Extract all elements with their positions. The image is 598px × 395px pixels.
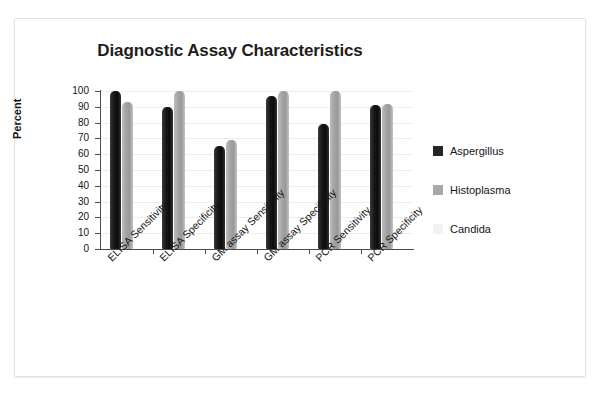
- bar[interactable]: [370, 105, 381, 249]
- legend-item[interactable]: Histoplasma: [433, 182, 583, 197]
- legend-label: Candida: [450, 223, 491, 235]
- legend-label: Aspergillus: [450, 145, 504, 157]
- y-axis-tick: [95, 138, 100, 139]
- y-axis-tick: [95, 249, 100, 250]
- y-axis-tick: [95, 233, 100, 234]
- y-axis-tick: [95, 123, 100, 124]
- bar[interactable]: [174, 91, 185, 249]
- bar[interactable]: [110, 91, 121, 249]
- bar[interactable]: [278, 91, 289, 249]
- y-axis-tick: [95, 107, 100, 108]
- legend-item[interactable]: Candida: [433, 221, 583, 236]
- bar[interactable]: [214, 146, 225, 249]
- y-axis-title: Percent: [11, 99, 23, 139]
- y-axis-tick-label: 10: [63, 228, 89, 238]
- y-axis-tick-label: 70: [63, 133, 89, 143]
- y-axis-tick: [95, 217, 100, 218]
- legend-item[interactable]: Aspergillus: [433, 143, 583, 158]
- y-axis-tick-label: 100: [63, 86, 89, 96]
- y-axis-tick: [95, 154, 100, 155]
- x-axis-tick: [205, 249, 206, 254]
- x-axis-tick: [309, 249, 310, 254]
- y-axis-tick: [95, 202, 100, 203]
- y-axis-tick-labels: 1009080706050403020100: [59, 19, 89, 319]
- bar[interactable]: [122, 102, 133, 249]
- y-axis-tick-label: 90: [63, 102, 89, 112]
- x-axis-category-labels: ELISA SensitivityELISA SpecificityGM ass…: [101, 255, 431, 365]
- bar[interactable]: [330, 91, 341, 249]
- y-axis-tick-label: 20: [63, 212, 89, 222]
- y-axis-tick-label: 0: [63, 244, 89, 254]
- chart-legend: AspergillusHistoplasmaCandida: [433, 143, 583, 260]
- legend-color-swatch: [433, 146, 443, 156]
- y-axis-tick: [95, 170, 100, 171]
- y-axis-tick-label: 50: [63, 165, 89, 175]
- figure-frame: Diagnostic Assay Characteristics Percent…: [14, 18, 586, 377]
- scanned-page-caption: [0, 0, 598, 12]
- y-axis-tick-label: 80: [63, 118, 89, 128]
- y-axis-tick-label: 30: [63, 197, 89, 207]
- legend-color-swatch: [433, 224, 443, 234]
- x-axis-tick: [153, 249, 154, 254]
- y-axis-tick: [95, 186, 100, 187]
- x-axis-tick: [257, 249, 258, 254]
- x-axis-tick: [361, 249, 362, 254]
- bar[interactable]: [318, 124, 329, 249]
- y-axis-tick: [95, 91, 100, 92]
- bar[interactable]: [266, 96, 277, 249]
- y-axis-tick-label: 60: [63, 149, 89, 159]
- y-axis-tick-label: 40: [63, 181, 89, 191]
- legend-color-swatch: [433, 185, 443, 195]
- legend-label: Histoplasma: [450, 184, 511, 196]
- bar[interactable]: [162, 107, 173, 249]
